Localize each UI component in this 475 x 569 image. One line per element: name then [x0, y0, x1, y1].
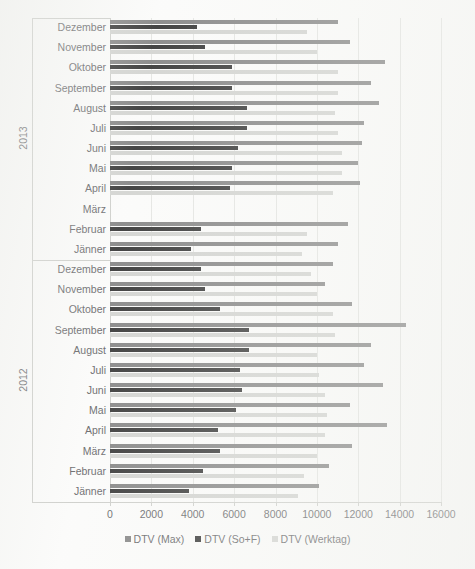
- bar-row: [110, 464, 441, 482]
- bar-2012-Juli-DTVSoF: [110, 368, 240, 372]
- bar-row: [110, 40, 441, 58]
- category-label-2012-Februar: Februar: [2, 466, 106, 477]
- bar-2013-Juni-DTVWerktag: [110, 151, 342, 155]
- bar-2013-November-DTVMax: [110, 40, 350, 44]
- bar-2013-Jänner-DTVMax: [110, 242, 338, 246]
- bar-2012-April-DTVSoF: [110, 428, 218, 432]
- plot-area: [110, 18, 441, 502]
- bar-2013-Juli-DTVMax: [110, 121, 364, 125]
- bar-2012-Oktober-DTVWerktag: [110, 312, 333, 316]
- bar-2013-Oktober-DTVMax: [110, 60, 385, 64]
- bar-2012-September-DTVWerktag: [110, 333, 335, 337]
- bar-2012-März-DTVMax: [110, 444, 352, 448]
- category-label-2013-Februar: Februar: [2, 224, 106, 235]
- bar-row: [110, 423, 441, 441]
- category-label-2013-August: August: [2, 103, 106, 114]
- bar-2012-November-DTVMax: [110, 282, 325, 286]
- bar-row: [110, 60, 441, 78]
- category-label-2013-Dezember: Dezember: [2, 22, 106, 33]
- bar-2013-Jänner-DTVWerktag: [110, 252, 302, 256]
- category-label-2012-Juni: Juni: [2, 385, 106, 396]
- bar-2012-November-DTVWerktag: [110, 292, 317, 296]
- bar-2013-November-DTVWerktag: [110, 50, 317, 54]
- category-label-2012-Mai: Mai: [2, 405, 106, 416]
- category-label-2013-September: September: [2, 83, 106, 94]
- bar-2013-Februar-DTVMax: [110, 222, 348, 226]
- bar-row: [110, 81, 441, 99]
- bar-2013-Juli-DTVSoF: [110, 126, 247, 130]
- category-label-2012-November: November: [2, 284, 106, 295]
- bar-row: [110, 363, 441, 381]
- bar-2012-März-DTVSoF: [110, 449, 220, 453]
- category-label-2012-März: März: [2, 446, 106, 457]
- bar-2012-Juli-DTVWerktag: [110, 373, 319, 377]
- category-label-2013-April: April: [2, 183, 106, 194]
- category-label-2012-Dezember: Dezember: [2, 264, 106, 275]
- bar-row: [110, 121, 441, 139]
- bar-2012-Oktober-DTVMax: [110, 302, 352, 306]
- bar-2013-Mai-DTVMax: [110, 161, 358, 165]
- category-label-2012-Oktober: Oktober: [2, 304, 106, 315]
- legend-label: DTV (So+F): [204, 533, 260, 545]
- bar-row: [110, 181, 441, 199]
- chart-legend: DTV (Max)DTV (So+F)DTV (Werktag): [0, 533, 475, 545]
- legend-item-DTVSoF[interactable]: DTV (So+F): [195, 533, 260, 545]
- bar-2013-Dezember-DTVSoF: [110, 25, 197, 29]
- legend-item-DTVMax[interactable]: DTV (Max): [125, 533, 185, 545]
- bar-2012-Mai-DTVWerktag: [110, 413, 327, 417]
- legend-item-DTVWerktag[interactable]: DTV (Werktag): [272, 533, 351, 545]
- bar-2013-Juni-DTVMax: [110, 141, 362, 145]
- legend-swatch-icon: [272, 536, 278, 542]
- category-label-2013-November: November: [2, 42, 106, 53]
- bar-2012-Dezember-DTVWerktag: [110, 272, 311, 276]
- bar-2013-Jänner-DTVSoF: [110, 247, 191, 251]
- x-tick-label-16000: 16000: [411, 508, 471, 520]
- bar-2012-Jänner-DTVMax: [110, 484, 319, 488]
- bar-row: [110, 262, 441, 280]
- bar-2013-April-DTVMax: [110, 181, 360, 185]
- bar-2013-Oktober-DTVWerktag: [110, 70, 338, 74]
- bar-2012-September-DTVMax: [110, 323, 406, 327]
- category-label-2013-März: März: [2, 204, 106, 215]
- bar-row: [110, 403, 441, 421]
- bar-2012-August-DTVWerktag: [110, 353, 317, 357]
- bar-row: [110, 444, 441, 462]
- bar-2012-April-DTVMax: [110, 423, 387, 427]
- bar-row: [110, 242, 441, 260]
- bar-2012-August-DTVMax: [110, 343, 371, 347]
- bar-row: [110, 161, 441, 179]
- bar-2013-Dezember-DTVMax: [110, 20, 338, 24]
- legend-label: DTV (Werktag): [281, 533, 351, 545]
- x-tick-mark-16000: [441, 502, 442, 506]
- bar-2013-Mai-DTVSoF: [110, 166, 232, 170]
- bar-row: [110, 20, 441, 38]
- bar-2013-November-DTVSoF: [110, 45, 205, 49]
- bar-row: [110, 302, 441, 320]
- bar-2012-Oktober-DTVSoF: [110, 307, 220, 311]
- bar-2012-August-DTVSoF: [110, 348, 249, 352]
- bar-2012-Jänner-DTVWerktag: [110, 494, 298, 498]
- bar-2013-August-DTVMax: [110, 101, 379, 105]
- bar-2012-November-DTVSoF: [110, 287, 205, 291]
- bar-2012-Juni-DTVSoF: [110, 388, 242, 392]
- bar-row: [110, 343, 441, 361]
- category-label-2012-April: April: [2, 425, 106, 436]
- category-label-2013-Mai: Mai: [2, 163, 106, 174]
- bar-2012-April-DTVWerktag: [110, 433, 325, 437]
- bar-row: [110, 484, 441, 502]
- chart-container: 20132012 DezemberNovemberOktoberSeptembe…: [0, 0, 475, 569]
- category-label-2012-Jänner: Jänner: [2, 486, 106, 497]
- category-label-2012-Juli: Juli: [2, 365, 106, 376]
- bar-row: [110, 141, 441, 159]
- bar-2013-August-DTVWerktag: [110, 111, 335, 115]
- category-label-2012-August: August: [2, 345, 106, 356]
- category-label-2013-Juni: Juni: [2, 143, 106, 154]
- legend-swatch-icon: [195, 536, 201, 542]
- bar-2012-Juni-DTVWerktag: [110, 393, 325, 397]
- category-label-2013-Jänner: Jänner: [2, 244, 106, 255]
- bar-row: [110, 101, 441, 119]
- bar-2013-Februar-DTVWerktag: [110, 232, 307, 236]
- bar-2013-Juni-DTVSoF: [110, 146, 238, 150]
- bar-2012-Juni-DTVMax: [110, 383, 383, 387]
- legend-label: DTV (Max): [134, 533, 185, 545]
